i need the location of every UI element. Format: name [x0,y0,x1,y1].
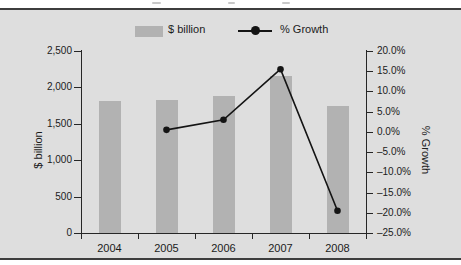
growth-point-marker [163,127,170,134]
figure: $ billion % Growth $ billion % Growth 2,… [0,0,461,265]
growth-line [167,69,338,211]
growth-point-marker [277,66,284,73]
growth-point-marker [334,207,341,214]
growth-line-layer [0,10,461,258]
growth-point-marker [220,116,227,123]
chart-panel: $ billion % Growth $ billion % Growth 2,… [0,8,461,260]
